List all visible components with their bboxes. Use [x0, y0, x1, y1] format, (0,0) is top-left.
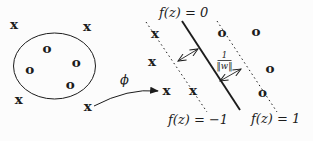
- o-marker: o: [265, 60, 274, 76]
- fraction-denominator: ‖w‖: [217, 61, 233, 72]
- o-marker: o: [42, 40, 51, 56]
- diagram-svg: x x x x o o o o ϕ f(z) = 0 f(z) = −1 f(z…: [0, 0, 313, 141]
- o-marker: o: [25, 61, 34, 77]
- phi-mapping-arrow: [94, 91, 158, 106]
- x-marker: x: [84, 98, 93, 114]
- x-marker: x: [148, 53, 157, 69]
- o-marker: o: [251, 23, 260, 39]
- o-marker: o: [217, 24, 226, 40]
- phi-label: ϕ: [120, 72, 129, 87]
- x-marker: x: [15, 91, 24, 107]
- o-marker: o: [66, 76, 75, 92]
- x-marker: x: [151, 25, 160, 41]
- o-marker: o: [258, 84, 267, 100]
- negative-margin-label: f(z) = −1: [167, 112, 228, 127]
- svm-kernel-mapping-diagram: x x x x o o o o ϕ f(z) = 0 f(z) = −1 f(z…: [0, 0, 313, 141]
- x-marker: x: [83, 18, 92, 34]
- positive-margin-label: f(z) = 1: [250, 111, 300, 126]
- margin-width-arrow-left: [178, 49, 198, 61]
- margin-width-fraction: 1 ‖w‖: [217, 50, 233, 72]
- o-marker: o: [72, 54, 81, 70]
- x-marker: x: [189, 82, 198, 98]
- hyperplane-label: f(z) = 0: [158, 5, 208, 20]
- x-marker: x: [10, 16, 19, 32]
- x-marker: x: [162, 82, 171, 98]
- fraction-numerator: 1: [222, 50, 227, 60]
